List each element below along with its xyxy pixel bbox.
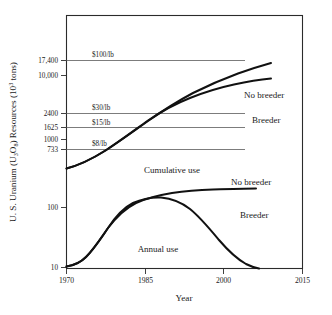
y-tick-label-733: 733 (47, 146, 58, 154)
curve-annual-no-breeder (67, 189, 257, 267)
y-tick-label-2400: 2400 (44, 110, 59, 118)
y-axis-title: U. S. Uranium (U3O8) Resources (103 tons… (7, 62, 19, 222)
curve-cumulative-no-breeder (67, 63, 272, 169)
x-axis-ticks (67, 269, 303, 275)
price-label-30: $30/lb (92, 104, 111, 112)
annotation-cumulative-use: Cumulative use (144, 165, 200, 175)
y-axis-title-mid-resources: ) Resources (10 (8, 85, 18, 143)
y-axis-ticks (61, 61, 67, 268)
y-tick-label-10: 10 (51, 264, 59, 272)
curve-label-cumulative-breeder: Breeder (252, 115, 280, 125)
x-tick-label-1985: 1985 (138, 276, 153, 285)
annotation-annual-use: Annual use (138, 244, 179, 254)
y-axis-title-lead: U. S. Uranium (U (8, 156, 18, 222)
curve-annual-breeder (67, 197, 260, 268)
price-label-100: $100/lb (92, 51, 114, 59)
price-label-8: $8/lb (92, 140, 107, 148)
x-tick-label-2000: 2000 (216, 276, 231, 285)
y-tick-label-1000: 1000 (44, 136, 59, 144)
y-tick-label-17400: 17,400 (38, 57, 58, 65)
y-tick-label-1625: 1625 (44, 124, 59, 132)
y-tick-label-100: 100 (47, 204, 58, 212)
y-tick-label-10000: 10,000 (38, 72, 58, 80)
uranium-resources-figure: 17,400 10,000 2400 1625 1000 733 100 10 … (0, 0, 332, 315)
curve-label-annual-breeder: Breeder (240, 210, 268, 220)
chart-canvas: 17,400 10,000 2400 1625 1000 733 100 10 … (0, 0, 332, 315)
x-axis-title: Year (176, 293, 193, 303)
x-tick-label-1970: 1970 (59, 276, 74, 285)
x-tick-label-2015: 2015 (295, 276, 310, 285)
curve-label-cumulative-no-breeder: No breeder (244, 90, 284, 100)
y-axis-title-tail: tons) (8, 62, 18, 83)
curve-label-annual-no-breeder: No breeder (231, 177, 271, 187)
price-label-15: $15/lb (92, 119, 111, 127)
